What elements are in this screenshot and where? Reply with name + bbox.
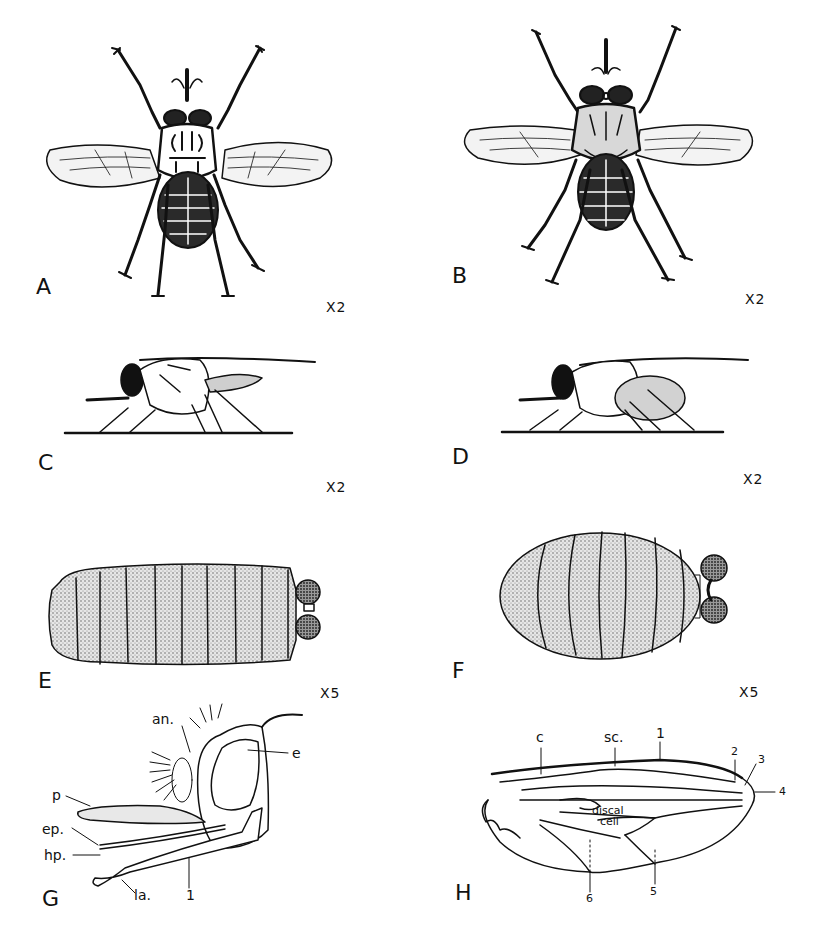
label-vein-3: 3 bbox=[758, 754, 765, 765]
panel-letter-h: H bbox=[455, 882, 472, 904]
label-c-costa: c bbox=[536, 730, 544, 744]
label-vein-2: 2 bbox=[731, 746, 738, 757]
figure-plate: A X2 bbox=[0, 0, 817, 932]
label-sc-subcosta: sc. bbox=[604, 730, 623, 744]
label-vein-5: 5 bbox=[650, 886, 657, 897]
label-vein-1: 1 bbox=[656, 726, 665, 740]
label-vein-4: 4 bbox=[779, 786, 786, 797]
label-cell: cell bbox=[600, 816, 619, 827]
label-vein-6: 6 bbox=[586, 893, 593, 904]
wing-venation-diagram-h bbox=[0, 0, 817, 932]
